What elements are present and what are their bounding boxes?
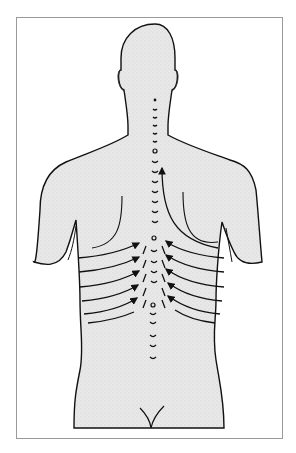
- back-illustration: [0, 0, 296, 453]
- body-silhouette: [34, 24, 262, 428]
